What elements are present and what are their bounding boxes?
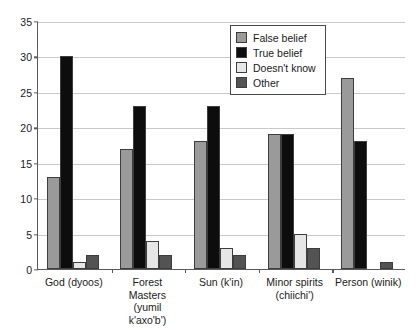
bar: [294, 234, 307, 269]
legend-swatch-icon: [236, 47, 247, 58]
legend-label: Doesn't know: [253, 62, 316, 74]
y-tick-mark: [34, 234, 38, 235]
legend-swatch-icon: [236, 32, 247, 43]
legend-label: True belief: [253, 47, 302, 59]
x-axis-label-line: Person (winik): [331, 276, 405, 289]
legend-item: Other: [236, 75, 316, 90]
bar: [47, 177, 60, 269]
bar: [354, 141, 367, 269]
y-tick-label: 20: [4, 122, 32, 134]
bar: [133, 106, 146, 269]
y-tick-mark: [34, 21, 38, 22]
bar: [307, 248, 320, 269]
bar-group: [341, 22, 393, 269]
x-axis-label-line: Minor spirits: [258, 276, 332, 289]
x-axis-label: Person (winik): [331, 276, 405, 289]
bar: [120, 149, 133, 269]
bar: [146, 241, 159, 269]
x-axis-label-line: (yumil: [111, 301, 185, 314]
x-axis-label-line: (chiichi'): [258, 289, 332, 302]
y-tick-mark: [34, 92, 38, 93]
x-axis-label-line: Sun (k'in): [184, 276, 258, 289]
x-axis-label-line: Forest: [111, 276, 185, 289]
bar: [341, 78, 354, 269]
x-tick-mark: [185, 269, 186, 273]
bar: [86, 255, 99, 269]
y-tick-label: 15: [4, 158, 32, 170]
y-tick-label: 10: [4, 193, 32, 205]
y-tick-label: 5: [4, 229, 32, 241]
x-axis-label: God (dyoos): [37, 276, 111, 289]
y-tick-mark: [34, 163, 38, 164]
x-axis-label-line: God (dyoos): [37, 276, 111, 289]
x-axis-label: Sun (k'in): [184, 276, 258, 289]
y-tick-label: 25: [4, 87, 32, 99]
bar: [194, 141, 207, 269]
y-tick-label: 30: [4, 51, 32, 63]
y-tick-mark: [34, 57, 38, 58]
legend-item: Doesn't know: [236, 60, 316, 75]
bar: [233, 255, 246, 269]
bar: [73, 262, 86, 269]
bar: [159, 255, 172, 269]
bar-group: [120, 22, 172, 269]
bar: [207, 106, 220, 269]
gridline: [38, 270, 405, 271]
legend: False beliefTrue beliefDoesn't knowOther: [230, 25, 326, 95]
x-axis-label: Minor spirits(chiichi'): [258, 276, 332, 301]
x-tick-mark: [112, 269, 113, 273]
y-tick-mark: [34, 269, 38, 270]
bar: [60, 56, 73, 269]
bar-chart: 05101520253035 God (dyoos)ForestMasters(…: [0, 0, 420, 332]
bar-group: [47, 22, 99, 269]
y-tick-label: 35: [4, 16, 32, 28]
legend-item: True belief: [236, 45, 316, 60]
y-tick-mark: [34, 198, 38, 199]
x-tick-mark: [332, 269, 333, 273]
legend-label: Other: [253, 77, 279, 89]
x-axis-label-line: Masters: [111, 289, 185, 302]
legend-swatch-icon: [236, 77, 247, 88]
x-axis-label: ForestMasters(yumilk'axo'b'): [111, 276, 185, 326]
x-tick-mark: [259, 269, 260, 273]
bar: [380, 262, 393, 269]
x-axis-label-line: k'axo'b'): [111, 314, 185, 327]
bar: [220, 248, 233, 269]
y-tick-mark: [34, 128, 38, 129]
bar: [268, 134, 281, 269]
legend-item: False belief: [236, 30, 316, 45]
y-tick-label: 0: [4, 264, 32, 276]
legend-label: False belief: [253, 32, 307, 44]
bar: [281, 134, 294, 269]
plot-area: [37, 22, 405, 270]
legend-swatch-icon: [236, 62, 247, 73]
